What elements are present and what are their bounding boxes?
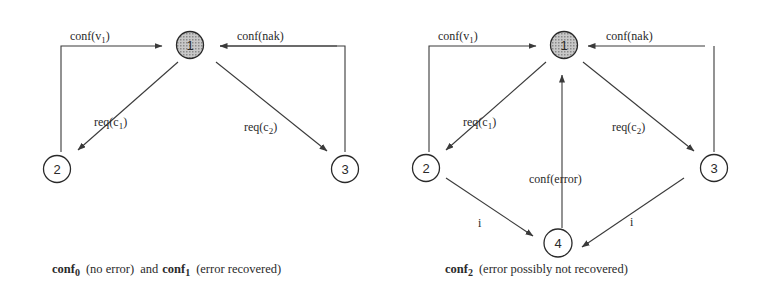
node-2: 2 (44, 156, 71, 183)
edge-2-to-4 (446, 178, 533, 236)
node-1: 1 (177, 32, 204, 59)
node-4: 4 (544, 229, 572, 257)
edge-label-conf-v1: conf(v1) (438, 29, 478, 45)
svg-text:1: 1 (186, 38, 193, 53)
edge-label-req-c1: req(c1) (463, 115, 496, 131)
edge-1-to-2 (446, 62, 546, 150)
edge-label-req-c2: req(c2) (612, 120, 645, 136)
edge-label-conf-error: conf(error) (529, 172, 582, 186)
edge-label-i-left: i (478, 216, 482, 230)
edge-label-conf-nak: conf(nak) (606, 29, 653, 43)
right-caption: conf2(error possibly not recovered) (445, 262, 628, 278)
edge-label-i-right: i (630, 215, 634, 229)
edge-3-to-1-vertical (220, 46, 345, 152)
edge-3-to-4 (582, 178, 684, 247)
state-diagram: conf(v1) conf(nak) req(c1) req(c2) 1 2 3… (0, 0, 776, 304)
edge-1-to-3 (583, 62, 694, 151)
svg-text:3: 3 (710, 161, 717, 176)
left-diagram: conf(v1) conf(nak) req(c1) req(c2) 1 2 3… (44, 29, 359, 278)
edge-label-conf-v1: conf(v1) (70, 29, 110, 45)
node-1: 1 (551, 32, 578, 59)
svg-text:2: 2 (422, 161, 429, 176)
node-3: 3 (701, 155, 728, 182)
edge-2-to-1 (61, 46, 162, 152)
svg-text:1: 1 (560, 38, 567, 53)
svg-text:2: 2 (53, 162, 60, 177)
right-diagram: conf(v1) conf(nak) req(c1) req(c2) conf(… (413, 29, 728, 278)
left-caption: conf0(no error)andconf1(error recovered) (52, 262, 281, 278)
edge-label-req-c2: req(c2) (244, 120, 277, 136)
node-2: 2 (413, 155, 440, 182)
svg-text:4: 4 (554, 236, 561, 251)
svg-text:3: 3 (341, 162, 348, 177)
edge-label-conf-nak: conf(nak) (237, 29, 284, 43)
edge-2-to-1 (429, 46, 536, 152)
edge-label-req-c1: req(c1) (94, 115, 127, 131)
node-3: 3 (332, 156, 359, 183)
edge-1-to-2 (78, 62, 178, 150)
edge-1-to-3 (216, 62, 327, 151)
